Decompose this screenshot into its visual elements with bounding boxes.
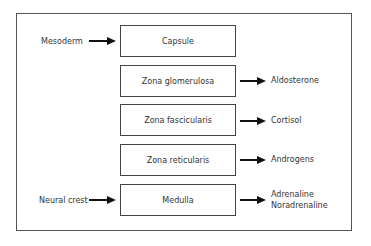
product-cortisol: Cortisol [271, 115, 301, 126]
arrow-right-icon [89, 37, 116, 45]
zone-glomerulosa: Zona glomerulosa [120, 65, 236, 97]
arrow-right-icon [240, 156, 266, 164]
zone-fascicularis: Zona fascicularis [120, 104, 236, 136]
arrow-right-icon [240, 117, 266, 125]
arrow-right-icon [240, 196, 266, 204]
origin-mesoderm: Mesoderm [41, 36, 83, 47]
product-noradrenaline: Noradrenaline [271, 200, 328, 211]
zone-reticularis: Zona reticularis [120, 144, 236, 176]
product-aldosterone: Aldosterone [271, 75, 319, 86]
product-adrenaline: Adrenaline [271, 189, 314, 200]
zone-capsule: Capsule [120, 25, 236, 57]
origin-neural-crest: Neural crest [39, 195, 88, 206]
product-androgens: Androgens [271, 154, 314, 165]
arrow-right-icon [240, 77, 266, 85]
arrow-right-icon [89, 196, 116, 204]
zone-medulla: Medulla [120, 184, 236, 216]
